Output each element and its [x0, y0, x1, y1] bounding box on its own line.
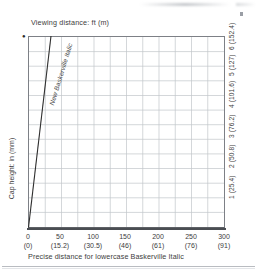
y-tick-label-6: 6 (152.4): [228, 0, 235, 50]
origin-marker-icon: ●: [22, 33, 26, 39]
x-axis-line: [27, 228, 226, 230]
x-axis-title: Precise distance for lowercase Baskervil…: [28, 252, 238, 261]
x-tick-300-secondary: (91): [201, 241, 247, 250]
y-axis-title: Cap height: in (mm): [8, 126, 15, 212]
x-tick-300: 300 (91): [201, 232, 247, 250]
plot-area: [28, 36, 225, 228]
footer-divider-shadow: [2, 268, 255, 269]
gridlines: [29, 37, 224, 227]
x-tick-300-primary: 300: [201, 232, 247, 241]
chart-figure: Viewing distance: ft (m) ●: [0, 0, 257, 275]
vertical-gridlines: [45, 37, 208, 227]
y-axis-tick-labels: 1 (25.4) 2 (50.8) 3 (76.2) 4 (101.6) 5 (…: [228, 0, 257, 260]
footer-divider: [2, 266, 255, 267]
chart-top-title: Viewing distance: ft (m): [31, 18, 109, 27]
